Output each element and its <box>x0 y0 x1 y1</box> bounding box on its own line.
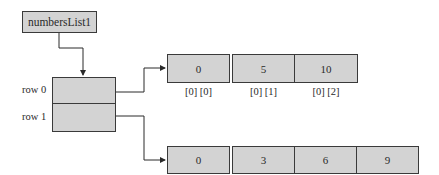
row-reference-array <box>52 77 116 132</box>
cell-0-2: 10 <box>294 54 358 83</box>
cell-value: 10 <box>321 63 332 75</box>
variable-name: numbersList1 <box>28 16 91 28</box>
cell-value: 6 <box>323 154 329 166</box>
arrow-row1-to-array <box>115 116 165 160</box>
index-0-0: [0] [0] <box>167 86 230 97</box>
row-divider <box>52 103 116 104</box>
cell-1-2: 6 <box>294 146 357 174</box>
cell-value: 3 <box>261 154 267 166</box>
cell-value: 0 <box>196 63 202 75</box>
cell-0-0: 0 <box>167 54 230 83</box>
cell-1-0: 0 <box>167 146 230 174</box>
row-1-label: row 1 <box>22 111 46 122</box>
variable-box: numbersList1 <box>22 11 97 33</box>
row-0-label: row 0 <box>22 84 46 95</box>
cell-1-3: 9 <box>356 146 419 174</box>
arrow-var-to-rows <box>59 32 83 75</box>
cell-value: 9 <box>385 154 391 166</box>
cell-0-1: 5 <box>232 54 295 83</box>
cell-value: 5 <box>261 63 267 75</box>
arrow-row0-to-array <box>115 68 165 92</box>
cell-value: 0 <box>196 154 202 166</box>
index-0-1: [0] [1] <box>232 86 295 97</box>
cell-1-1: 3 <box>232 146 295 174</box>
index-0-2: [0] [2] <box>294 86 358 97</box>
